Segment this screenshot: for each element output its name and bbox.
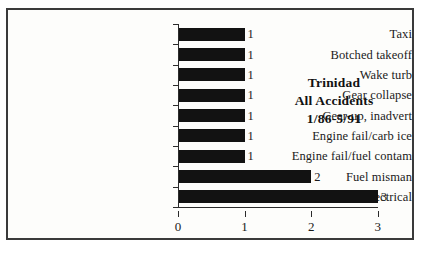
bar-value-4: 1 bbox=[248, 110, 254, 123]
x-axis-tick-label-3: 3 bbox=[368, 220, 388, 234]
plot-area: Taxi Botched takeoff Wake turb Gear coll… bbox=[8, 10, 412, 238]
bar-2 bbox=[178, 68, 245, 81]
chart-frame: Taxi Botched takeoff Wake turb Gear coll… bbox=[6, 8, 414, 240]
category-label-5: Engine fail/carb ice bbox=[248, 130, 412, 143]
bar-value-6: 1 bbox=[248, 150, 254, 163]
x-axis-tick-label-2: 2 bbox=[301, 220, 321, 234]
category-label-1: Botched takeoff bbox=[248, 49, 412, 62]
bar-3 bbox=[178, 89, 245, 102]
bar-1 bbox=[178, 48, 245, 61]
x-axis-tick-label-0: 0 bbox=[168, 220, 188, 234]
chart-title-line-3: 1/86-5/91 bbox=[264, 110, 404, 128]
bar-value-8: 3 bbox=[381, 191, 387, 204]
bar-6 bbox=[178, 150, 245, 163]
bar-8 bbox=[178, 190, 378, 203]
chart-title: Trinidad All Accidents 1/86-5/91 bbox=[264, 74, 404, 128]
category-label-0: Taxi bbox=[248, 28, 412, 41]
y-axis-line bbox=[178, 24, 179, 207]
category-label-6: Engine fail/fuel contam bbox=[248, 150, 412, 163]
bar-0 bbox=[178, 28, 245, 41]
bar-value-7: 2 bbox=[314, 171, 320, 184]
bar-value-1: 1 bbox=[248, 49, 254, 62]
bar-5 bbox=[178, 129, 245, 142]
x-axis-tick-label-1: 1 bbox=[235, 220, 255, 234]
bar-7 bbox=[178, 170, 311, 183]
x-axis-tick bbox=[378, 211, 379, 217]
x-axis-tick bbox=[245, 211, 246, 217]
x-axis-tick bbox=[311, 211, 312, 217]
x-axis-tick bbox=[178, 211, 179, 217]
bar-value-2: 1 bbox=[248, 69, 254, 82]
bar-value-3: 1 bbox=[248, 89, 254, 102]
bar-4 bbox=[178, 109, 245, 122]
x-axis-line bbox=[178, 207, 378, 208]
chart-title-line-2: All Accidents bbox=[264, 92, 404, 110]
chart-title-line-1: Trinidad bbox=[264, 74, 404, 92]
bar-value-5: 1 bbox=[248, 130, 254, 143]
bar-value-0: 1 bbox=[248, 28, 254, 41]
